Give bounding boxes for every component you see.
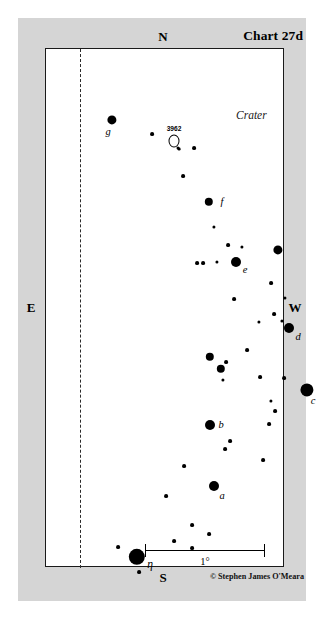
star-label: d — [295, 331, 300, 342]
field-star — [195, 261, 199, 265]
star-label: a — [219, 490, 224, 501]
cardinal-label-south: S — [148, 570, 178, 586]
galaxy-label: 3962 — [167, 125, 182, 132]
field-star — [258, 375, 262, 379]
named-star — [231, 257, 241, 267]
star-label: e — [243, 264, 248, 275]
cardinal-label-west: W — [286, 300, 304, 316]
field-star — [177, 147, 180, 150]
star-label: b — [218, 419, 223, 430]
named-star — [284, 323, 294, 333]
field-star — [150, 132, 154, 136]
cardinal-label-north: N — [148, 29, 178, 45]
copyright-credit: © Stephen James O'Meara — [210, 572, 304, 581]
field-star — [182, 464, 186, 468]
named-star — [205, 198, 213, 206]
field-star — [224, 360, 228, 364]
field-star — [223, 447, 227, 451]
field-star — [206, 353, 214, 361]
field-star — [137, 570, 141, 574]
field-star — [273, 409, 277, 413]
field-star — [192, 146, 196, 150]
star-field-frame: Crater gfedcbaη3962 1° — [45, 48, 284, 567]
field-star — [212, 225, 215, 228]
named-star — [209, 481, 219, 491]
field-star — [272, 312, 276, 316]
field-star — [269, 281, 273, 285]
star-label: g — [105, 126, 110, 137]
field-star — [269, 399, 272, 402]
named-star — [107, 115, 116, 124]
field-star — [280, 319, 283, 322]
named-star — [129, 549, 145, 565]
scale-bar-label: 1° — [145, 556, 265, 567]
field-star — [245, 348, 249, 352]
field-star — [221, 378, 224, 381]
field-star — [261, 458, 265, 462]
field-star — [257, 320, 260, 323]
field-star — [240, 245, 243, 248]
field-star — [282, 376, 286, 380]
field-star — [228, 439, 232, 443]
scale-bar-line — [145, 550, 265, 551]
constellation-label: Crater — [236, 109, 267, 121]
scale-bar: 1° — [145, 544, 265, 558]
field-star — [207, 532, 211, 536]
field-star — [267, 422, 271, 426]
field-star — [116, 545, 120, 549]
star-label: f — [221, 196, 224, 207]
field-star — [181, 174, 185, 178]
field-star — [164, 494, 168, 498]
star-chart: N S E W Chart 27d Crater gfedcbaη3962 1°… — [0, 0, 324, 618]
field-star — [215, 260, 218, 263]
named-star — [205, 420, 215, 430]
field-star — [172, 539, 176, 543]
field-star — [217, 365, 225, 373]
cardinal-label-east: E — [22, 300, 40, 316]
field-star — [201, 261, 205, 265]
chart-title: Chart 27d — [243, 28, 303, 44]
star-label: c — [311, 395, 316, 406]
field-star — [226, 243, 230, 247]
meridian-gridline — [80, 49, 81, 568]
field-star — [273, 245, 282, 254]
field-star — [190, 523, 194, 527]
field-star — [232, 297, 236, 301]
